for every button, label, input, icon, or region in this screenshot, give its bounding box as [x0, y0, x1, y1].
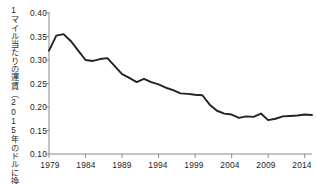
- plot-area: [0, 0, 316, 184]
- x-tick-marks: [49, 154, 305, 158]
- axis-lines: [49, 12, 312, 154]
- data-line-series: [49, 34, 312, 120]
- chart-container: 1マイル当たりの運賃（2015年のドルに換算） 0.40 0.35 0.30 0…: [0, 0, 316, 184]
- y-tick-marks: [45, 13, 49, 154]
